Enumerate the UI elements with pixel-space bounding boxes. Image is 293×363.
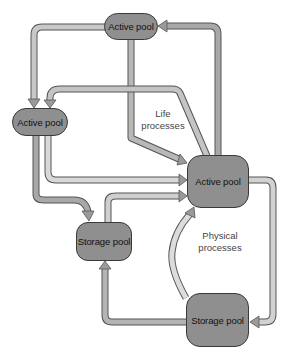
node-active-pool-top: Active pool: [104, 13, 158, 40]
physical-processes-label: Physical processes: [192, 230, 248, 254]
life-processes-label: Life processes: [138, 108, 188, 132]
node-storage-pool-right: Storage pool: [186, 293, 249, 347]
label-line: processes: [138, 120, 188, 132]
node-active-pool-center: Active pool: [187, 155, 249, 208]
node-active-pool-left: Active pool: [12, 108, 68, 136]
arrow-storage-left-to-center: [108, 190, 187, 222]
node-label: Active pool: [108, 21, 153, 32]
node-label: Storage pool: [191, 315, 244, 326]
arrow-top-to-center-active: [131, 40, 187, 165]
label-line: Physical: [192, 230, 248, 242]
node-label: Active pool: [195, 176, 240, 187]
arrow-left-to-center-active: [48, 136, 187, 186]
pool-flow-diagram: Active pool Active pool Active pool Stor…: [0, 0, 293, 363]
node-label: Active pool: [17, 117, 62, 128]
label-line: processes: [192, 242, 248, 254]
label-line: Life: [138, 108, 188, 120]
node-label: Storage pool: [78, 236, 131, 247]
node-storage-pool-left: Storage pool: [76, 222, 132, 261]
arrow-top-to-left-active: [28, 27, 106, 108]
arrow-center-to-storage-right: [249, 180, 273, 328]
arrows-layer: [0, 0, 293, 363]
